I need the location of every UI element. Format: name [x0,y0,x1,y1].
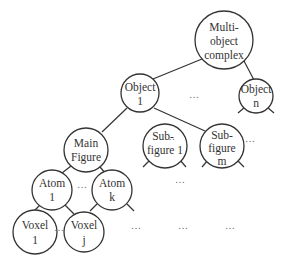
svg-text:…: … [77,179,87,190]
node-object-1: Object 1 [121,74,159,112]
svg-text:Voxel: Voxel [71,219,98,231]
svg-text:object: object [210,35,239,48]
svg-text:figure 1: figure 1 [147,144,183,157]
svg-text:…: … [131,220,141,231]
svg-text:…: … [189,89,199,100]
svg-text:Object: Object [125,81,156,94]
svg-text:k: k [109,191,115,203]
svg-text:Atom: Atom [39,177,65,189]
svg-text:…: … [175,174,185,185]
svg-text:Multi-: Multi- [209,21,239,33]
svg-text:Main: Main [74,137,99,149]
svg-text:1: 1 [137,95,143,107]
svg-text:j: j [81,234,85,247]
node-voxel-1: Voxel 1 [13,210,57,254]
node-object-n: Object n [239,79,273,113]
node-atom-1: Atom 1 [32,170,72,210]
svg-text:1: 1 [32,234,38,246]
node-sub-figure-m: Sub- figure m [200,124,244,168]
svg-text:figure: figure [208,142,235,155]
node-atom-k: Atom k [92,170,132,210]
svg-text:…: … [165,131,175,142]
svg-text:…: … [225,220,235,231]
node-main-figure: Main Figure [64,128,108,172]
svg-text:complex: complex [204,49,244,62]
svg-text:Voxel: Voxel [22,219,49,231]
node-voxel-j: Voxel j [64,212,104,252]
svg-text:Sub-: Sub- [211,129,233,141]
svg-text:n: n [253,97,259,109]
node-multi-object-complex: Multi- object complex [195,11,253,69]
edge-mainfigure-atom1 [62,166,71,173]
svg-text:m: m [218,155,227,167]
svg-text:1: 1 [49,191,55,203]
svg-text:…: … [245,133,255,144]
edge-root-object1 [153,59,202,79]
svg-text:Atom: Atom [99,177,125,189]
edge-atom1-voxelj [65,205,74,214]
hierarchy-diagram: Multi- object complex Object 1 Object n … [0,0,291,262]
svg-text:Object: Object [241,83,272,96]
svg-text:…: … [178,220,188,231]
edge-object1-mainfigure [102,108,127,132]
svg-text:Figure: Figure [71,151,101,164]
edge-root-objectn [244,61,254,80]
svg-text:…: … [54,222,64,233]
